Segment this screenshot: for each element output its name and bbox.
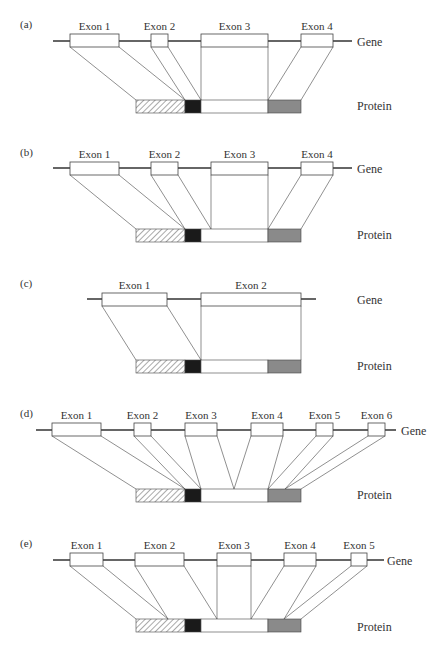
protein-domain-black [185,100,201,113]
gene-label: Gene [401,424,426,438]
projection-line [234,436,251,489]
projection-line [251,566,284,619]
exon-box [134,423,151,436]
projection-line [101,436,185,489]
protein-domain-hatched [136,229,185,242]
projection-line [135,566,168,619]
exon-box [52,423,101,436]
protein-domain-black [185,619,201,632]
exon-label: Exon 3 [224,148,256,160]
projection-line [103,566,168,619]
exon-box [217,553,251,566]
projection-line [167,306,201,360]
exon-label: Exon 5 [343,539,375,551]
panel-e: (e)Exon 1Exon 2Exon 3Exon 4Exon 5GenePro… [20,537,412,634]
exon-label: Exon 4 [251,409,283,421]
exon-box [351,553,367,566]
projection-line [184,566,217,619]
panel-d: (d)Exon 1Exon 2Exon 3Exon 4Exon 5Exon 6G… [20,407,426,502]
projection-line [119,47,185,100]
protein-domain-hatched [136,100,185,113]
protein-domain-white [201,489,268,502]
protein-domain-white [201,229,268,242]
projection-line [301,175,333,229]
panel-label: (e) [20,537,33,550]
protein-domain-hatched [136,489,185,502]
exon-label: Exon 1 [61,409,92,421]
projection-line [268,175,301,229]
protein-domain-black [185,229,201,242]
exon-box [70,34,119,47]
projection-line [217,436,234,489]
exon-box [211,162,268,175]
projection-line [301,47,333,100]
protein-domain-white [201,619,268,632]
protein-domain-hatched [136,619,185,632]
exon-box [70,162,119,175]
protein-label: Protein [357,99,392,113]
exon-label: Exon 6 [361,409,393,421]
projection-line [70,566,136,619]
protein-domain-white [201,360,268,373]
panel-a: (a)Exon 1Exon 2Exon 3Exon 4GeneProtein [20,18,392,113]
exon-label: Exon 4 [301,148,333,160]
exon-label: Exon 3 [219,20,251,32]
projection-line [151,175,185,229]
protein-domain-gray [268,360,301,373]
exon-box [151,34,168,47]
exon-box [368,423,385,436]
protein-domain-black [185,360,201,373]
exon-diagram: (a)Exon 1Exon 2Exon 3Exon 4GeneProtein(b… [0,0,444,647]
protein-domain-black [185,489,201,502]
gene-label: Gene [357,162,382,176]
exon-box [284,553,316,566]
exon-label: Exon 1 [79,148,110,160]
exon-box [102,293,167,306]
exon-box [301,34,333,47]
protein-label: Protein [357,488,392,502]
protein-label: Protein [357,228,392,242]
exon-label: Exon 1 [119,279,150,291]
protein-domain-gray [268,619,301,632]
exon-box [201,293,301,306]
protein-domain-white [201,100,268,113]
projection-line [52,436,136,489]
projection-line [284,566,351,619]
protein-label: Protein [357,620,392,634]
exon-label: Exon 4 [301,20,333,32]
protein-label: Protein [357,359,392,373]
projection-line [102,306,136,360]
projection-line [301,436,385,489]
exon-box [201,34,268,47]
panel-b: (b)Exon 1Exon 2Exon 3Exon 4GeneProtein [20,146,392,242]
exon-box [185,423,217,436]
projection-line [151,436,201,489]
projection-line [119,175,185,229]
exon-label: Exon 3 [185,409,217,421]
exon-box [151,162,178,175]
gene-label: Gene [387,554,412,568]
protein-domain-hatched [136,360,185,373]
projection-line [134,436,185,489]
projection-line [151,47,185,100]
projection-line [285,436,368,489]
exon-label: Exon 1 [79,20,110,32]
panel-c: (c)Exon 1Exon 2GeneProtein [20,277,392,373]
projection-line [268,47,301,100]
gene-label: Gene [357,293,382,307]
exon-label: Exon 5 [309,409,341,421]
exon-label: Exon 2 [144,20,175,32]
exon-box [301,162,333,175]
projection-line [168,47,201,100]
gene-label: Gene [357,35,382,49]
projection-line [185,436,201,489]
projection-line [70,175,136,229]
exon-label: Exon 1 [71,539,102,551]
exon-label: Exon 2 [235,279,266,291]
exon-box [70,553,103,566]
exon-label: Exon 2 [144,539,175,551]
projection-line [70,47,136,100]
panel-label: (a) [20,18,33,31]
panel-label: (d) [20,407,33,420]
projection-line [178,175,211,229]
